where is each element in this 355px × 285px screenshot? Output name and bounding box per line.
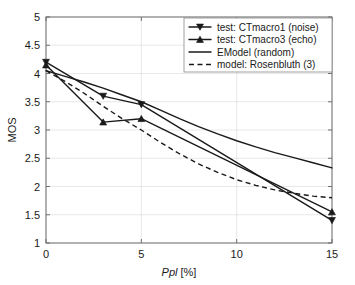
x-tick-label: 5 bbox=[138, 248, 144, 260]
y-tick-label: 4 bbox=[34, 68, 40, 80]
series-layer bbox=[43, 59, 336, 223]
y-tick-label: 5 bbox=[34, 11, 40, 23]
x-tick-label: 0 bbox=[43, 248, 49, 260]
series-1 bbox=[43, 62, 336, 215]
marker-triangle-down-point bbox=[329, 218, 336, 224]
y-tick-label: 1.5 bbox=[25, 209, 40, 221]
legend-label: EModel (random) bbox=[217, 47, 294, 58]
marker-triangle-up-point bbox=[329, 209, 336, 215]
legend-label: test: CTmacro3 (echo) bbox=[217, 34, 316, 45]
y-tick-label: 2.5 bbox=[25, 152, 40, 164]
y-tick-label: 3.5 bbox=[25, 96, 40, 108]
y-tick-label: 2 bbox=[34, 181, 40, 193]
series-2 bbox=[46, 71, 332, 168]
x-axis-title: Ppl [%] bbox=[162, 266, 197, 278]
chart-figure: 11.522.533.544.55051015 MOSPpl [%] test:… bbox=[0, 0, 355, 285]
legend-label: test: CTmacro1 (noise) bbox=[217, 22, 319, 33]
y-tick-label: 3 bbox=[34, 124, 40, 136]
legend-layer: test: CTmacro1 (noise)test: CTmacro3 (ec… bbox=[184, 18, 332, 72]
chart-canvas: 11.522.533.544.55051015 MOSPpl [%] test:… bbox=[0, 0, 355, 285]
series-line-2 bbox=[46, 71, 332, 168]
y-tick-label: 1 bbox=[34, 237, 40, 249]
x-tick-label: 15 bbox=[326, 248, 338, 260]
legend-label: model: Rosenbluth (3) bbox=[217, 59, 315, 70]
marker-triangle-up-point bbox=[43, 62, 50, 68]
x-axis-title-variable: Ppl bbox=[162, 266, 178, 278]
y-axis-title: MOS bbox=[6, 117, 18, 142]
axis-title-layer: MOSPpl [%] bbox=[6, 117, 196, 278]
x-axis-title-unit: [%] bbox=[177, 266, 196, 278]
x-tick-label: 10 bbox=[231, 248, 243, 260]
y-tick-label: 4.5 bbox=[25, 39, 40, 51]
